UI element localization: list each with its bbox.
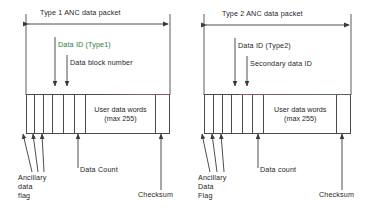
cell-adf-3 — [223, 95, 232, 133]
label-data-count: Data count — [260, 165, 296, 174]
cell-data-id — [53, 95, 64, 133]
span-title: Type 1 ANC data packet — [40, 8, 121, 17]
cell-secondary-data-id — [243, 95, 254, 133]
cell-adf-1 — [205, 95, 214, 133]
cell-adf-2 — [214, 95, 223, 133]
cell-adf-2 — [35, 95, 44, 133]
cell-adf-1 — [27, 95, 35, 133]
label-ancillary-data-flag: Ancillary Data Flag — [198, 173, 226, 200]
cell-user-data-words: User data words (max 255) — [264, 95, 337, 133]
cell-checksum — [337, 95, 350, 133]
callout-secondary-data-id: Secondary data ID — [250, 59, 312, 68]
cell-data-count — [253, 95, 264, 133]
cell-adf-3 — [44, 95, 53, 133]
cell-data-count — [75, 95, 86, 133]
cell-user-data-words: User data words (max 255) — [86, 95, 156, 133]
user-data-words-line2: (max 255) — [284, 114, 316, 124]
cell-checksum — [156, 95, 169, 133]
callout-data-id: Data ID (Type1) — [58, 40, 111, 49]
user-data-words-line1: User data words — [274, 105, 326, 115]
label-checksum: Checksum — [138, 190, 173, 199]
user-data-words-line2: (max 255) — [104, 114, 136, 124]
callout-data-id: Data ID (Type2) — [238, 41, 291, 50]
packet-cells: User data words (max 255) — [26, 94, 170, 134]
packet-diagram-type2: Type 2 ANC data packet Data ID (Type2) S… — [184, 0, 368, 217]
callout-data-block-number: Data block number — [70, 58, 133, 67]
span-title: Type 2 ANC data packet — [222, 9, 303, 18]
label-ancillary-data-flag: Ancillary data flag — [18, 173, 46, 200]
packet-diagram-type1: Type 1 ANC data packet Data ID (Type1) D… — [0, 0, 184, 217]
anc-packet-diagram: Type 1 ANC data packet Data ID (Type1) D… — [0, 0, 368, 217]
cell-data-id — [232, 95, 243, 133]
user-data-words-line1: User data words — [94, 105, 146, 115]
packet-cells: User data words (max 255) — [204, 94, 351, 134]
label-data-count: Data Count — [80, 165, 118, 174]
cell-data-block-number — [64, 95, 75, 133]
label-checksum: Checksum — [319, 190, 354, 199]
